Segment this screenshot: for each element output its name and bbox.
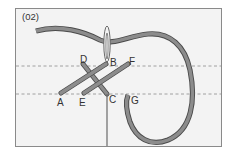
point-label-f: F — [129, 56, 135, 67]
point-label-d: D — [80, 54, 87, 65]
point-label-c: C — [109, 94, 116, 105]
stitch-diagram: (02) D B F A E C G — [0, 0, 235, 154]
point-label-e: E — [79, 97, 86, 108]
point-label-g: G — [131, 95, 139, 106]
point-label-b: B — [110, 57, 117, 68]
point-label-a: A — [57, 97, 64, 108]
step-label: (02) — [22, 11, 39, 22]
